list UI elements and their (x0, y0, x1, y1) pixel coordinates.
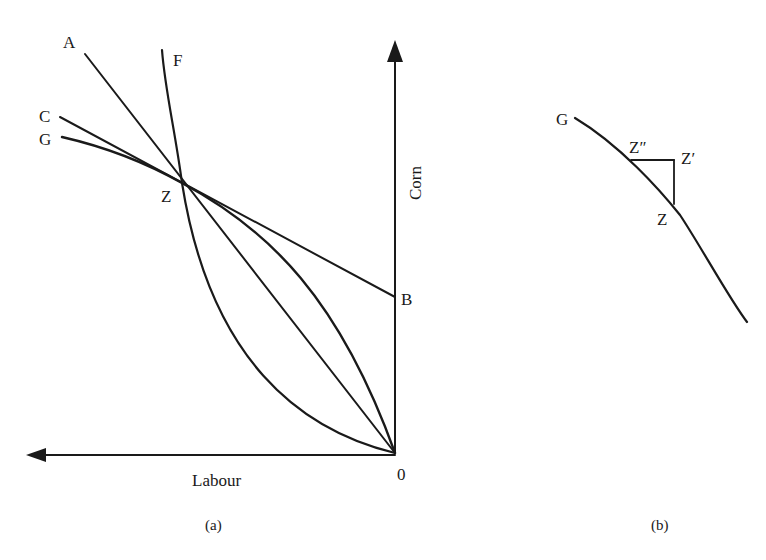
origin-label: 0 (397, 465, 406, 484)
label-C: C (39, 107, 50, 126)
caption-a: (a) (205, 517, 222, 534)
caption-b: (b) (651, 517, 669, 534)
label-G-b: G (556, 110, 568, 129)
corn-axis-label: Corn (406, 166, 425, 201)
corn-axis-arrowhead-icon (387, 40, 403, 62)
label-F: F (173, 51, 182, 70)
curve-F (162, 50, 395, 453)
line-A (85, 54, 395, 453)
label-Z-double-prime: Z″ (629, 138, 646, 157)
curve-G (62, 137, 395, 453)
panel-b: G Z″ Z′ Z (b) (556, 110, 747, 534)
labour-axis-arrowhead-icon (26, 448, 46, 462)
label-Z-b: Z (657, 210, 667, 229)
labour-axis-label: Labour (192, 471, 241, 490)
label-A: A (63, 33, 76, 52)
label-B: B (401, 290, 412, 309)
diagram-canvas: A F C G Z B 0 Corn Labour (a) G Z″ Z′ Z … (0, 0, 766, 560)
label-G: G (39, 130, 51, 149)
label-Z-prime: Z′ (681, 149, 695, 168)
panel-a: A F C G Z B 0 Corn Labour (a) (26, 33, 425, 534)
line-CB (60, 117, 395, 297)
label-Z: Z (161, 187, 171, 206)
